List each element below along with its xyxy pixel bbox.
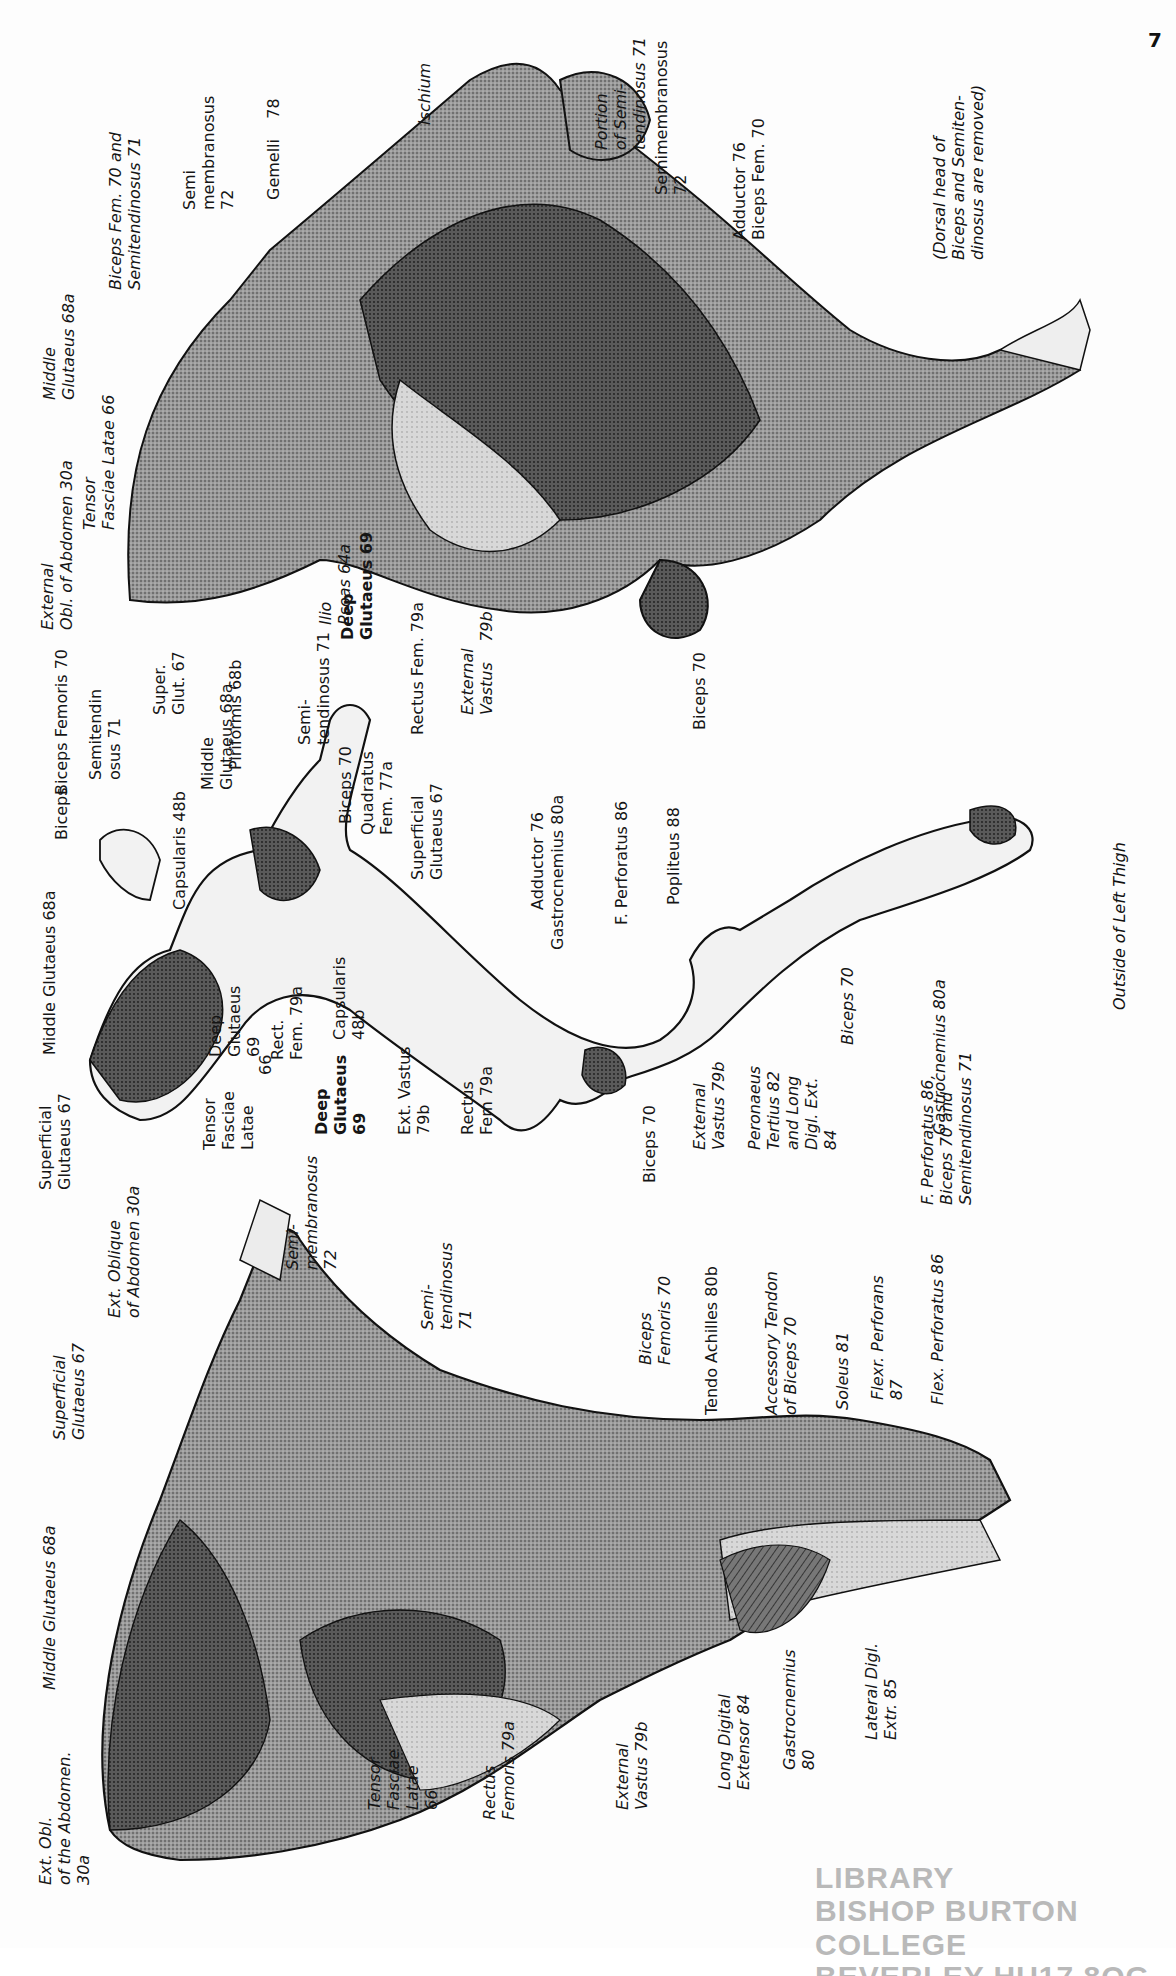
label-semimembranosus: Semimembranosus 72	[652, 41, 690, 195]
label-tensor-fasciae-latae: Tensor Fasciae Latae 66	[365, 1750, 441, 1810]
label-ext-oblique: Ext. Oblique of Abdomen 30a	[105, 1186, 143, 1318]
label-super-glut: Super. Glut. 67	[150, 651, 188, 715]
label-tendo-achilles: Tendo Achilles 80b	[702, 1266, 721, 1415]
label-external-oblique: External Obl. of Abdomen 30a	[38, 460, 76, 630]
label-capsularis-2: Capsularis 48b	[330, 957, 368, 1040]
label-soleus: Soleus 81	[833, 1332, 852, 1410]
label-long-digital-extensor: Long Digital Extensor 84	[715, 1694, 753, 1790]
library-stamp: LIBRARY BISHOP BURTON COLLEGE BEVERLEY H…	[815, 1862, 1176, 1976]
label-deep-glutaeus: Deep Glutaeus 69	[206, 986, 263, 1057]
label-external-vastus: External Vastus 79b	[613, 1722, 651, 1810]
label-superficial-glutaeus: Superficial Glutaeus 67	[50, 1343, 88, 1440]
label-deep-glutaeus: Deep Glutaeus 69	[338, 532, 376, 640]
label-external-vastus: External Vastus 79b	[690, 1062, 728, 1150]
label-rectus-fem: Rectus Fem. 79a	[408, 602, 427, 735]
stamp-line-3: BEVERLEY HU17 8QG	[815, 1962, 1176, 1976]
label-ext-obl-abdomen: Ext. Obl. of the Abdomen. 30a	[36, 1751, 93, 1885]
label-flexr-perforans: Flexr. Perforans 87	[868, 1275, 906, 1400]
label-adductor-biceps: Adductor 76 Biceps Fem. 70	[730, 118, 768, 240]
caption-dorsal-head-removed: (Dorsal head of Biceps and Semiten- dino…	[930, 85, 987, 260]
label-middle-glutaeus-2: Middle Glutaeus 68a	[40, 890, 59, 1055]
label-deep-glutaeus-2: Deep Glutaeus 69	[312, 1055, 369, 1135]
stamp-line-2: BISHOP BURTON COLLEGE	[815, 1894, 1176, 1962]
label-superficial-glutaeus-2: Superficial Glutaeus 67	[36, 1093, 74, 1190]
label-flex-perforatus: Flex. Perforatus 86	[928, 1254, 947, 1405]
label-gastrocnemius: Gastrocnemius 80a	[548, 795, 567, 950]
stamp-line-1: LIBRARY	[815, 1862, 1176, 1894]
label-biceps-femoris: Biceps Femoris 70	[636, 1276, 674, 1365]
label-accessory-tendon: Accessory Tendon of Biceps 70	[762, 1271, 800, 1415]
label-f-perforatus-biceps-semitendinosus: F. Perforatus 86, Biceps 70 and Semitend…	[918, 1052, 975, 1205]
label-biceps-2: Biceps	[52, 787, 71, 840]
label-biceps-semitendinosus: Biceps Fem. 70 and Semitendinosus 71	[106, 132, 144, 290]
label-peronaeus-tertius: Peronaeus Tertius 82 and Long Digl. Ext.…	[745, 1066, 840, 1150]
label-external-vastus: External Vastus 79b	[458, 611, 496, 715]
label-biceps-70: Biceps 70	[336, 746, 355, 824]
label-middle-glutaeus: Middle Glutaeus 68a	[40, 1525, 59, 1690]
label-lateral-digl-extr: Lateral Digl. Extr. 85	[862, 1643, 900, 1740]
label-biceps: Biceps 70	[690, 652, 709, 730]
label-biceps-3: Biceps 70	[640, 1105, 659, 1183]
label-tensor-fasciae-latae: Tensor Fasciae Latae 66	[80, 395, 118, 530]
label-semi-membranosus: Semi membranosus 72	[180, 96, 237, 210]
label-piriformis: Piriformis 68b	[226, 660, 245, 770]
label-ext-vastus: Ext. Vastus 79b	[395, 1046, 433, 1135]
label-rectus-fem: Rectus Fem 79a	[458, 1066, 496, 1135]
caption-outside-left-thigh: Outside of Left Thigh	[1110, 842, 1129, 1010]
label-semimembranosus: Semi- membranosus 72	[283, 1156, 340, 1270]
label-superficial-glutaeus: Superficial Glutaeus 67	[408, 783, 446, 880]
label-gastrocnemius: Gastrocnemius 80	[780, 1650, 818, 1770]
label-capsularis: Capsularis 48b	[170, 791, 189, 910]
label-quadratus-fem: Quadratus Fem. 77a	[358, 751, 396, 835]
label-f-perforatus: F. Perforatus 86	[612, 801, 631, 925]
label-adductor: Adductor 76	[528, 812, 547, 910]
label-biceps-4: Biceps 70	[838, 967, 857, 1045]
label-rect-fem: Rect. Fem. 79a	[268, 986, 306, 1060]
label-tensor-fasciae-latae: Tensor Fasciae Latae	[200, 1091, 257, 1150]
label-middle-glutaeus: Middle Glutaeus 68a	[40, 293, 78, 400]
label-ischium: Ischium	[415, 63, 434, 125]
label-semitendinosus: Semitendin osus 71	[86, 689, 124, 780]
label-semitendinosus: Semi- tendinosus 71	[418, 1242, 475, 1330]
label-rectus-femoris: Rectus Femoris 79a	[480, 1721, 518, 1820]
label-biceps-femoris: Biceps Femoris 70	[52, 649, 71, 795]
label-semitendinosus-2: Semi- tendinosus 71	[295, 632, 333, 745]
label-gemelli: Gemelli 78	[264, 98, 283, 200]
label-popliteus: Popliteus 88	[664, 807, 683, 905]
label-portion-semitendinosus: Portion of Semi- tendinosus 71	[592, 37, 649, 150]
